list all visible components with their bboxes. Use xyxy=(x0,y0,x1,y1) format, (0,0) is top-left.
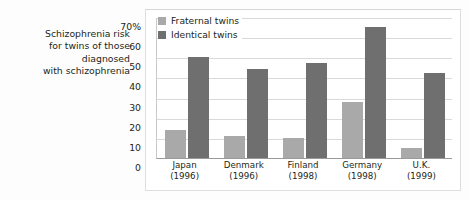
bar-fraternal-twins xyxy=(283,138,304,158)
legend-swatch-icon xyxy=(158,17,166,25)
y-axis-tick-label: 70% xyxy=(107,21,141,32)
figure-container: Schizophrenia risk for twins of those di… xyxy=(0,0,469,200)
x-axis-country: Germany xyxy=(333,160,392,171)
y-axis-tick-label: 0 xyxy=(107,162,141,173)
bar-fraternal-twins xyxy=(165,130,186,158)
y-axis-tick-label: 30 xyxy=(107,101,141,112)
bar-identical-twins xyxy=(365,27,386,158)
x-axis-country: Japan xyxy=(155,160,214,171)
x-axis-tick-label: U.K.(1999) xyxy=(392,160,451,182)
bar-fraternal-twins xyxy=(342,102,363,158)
x-axis-year: (1996) xyxy=(214,171,273,182)
x-axis-country: Denmark xyxy=(214,160,273,171)
x-axis-tick-label: Finland(1998) xyxy=(273,160,332,182)
x-axis: Japan(1996)Denmark(1996)Finland(1998)Ger… xyxy=(155,160,451,194)
x-axis-tick-label: Denmark(1996) xyxy=(214,160,273,182)
legend-swatch-icon xyxy=(158,31,166,39)
x-axis-year: (1998) xyxy=(333,171,392,182)
x-axis-tick-label: Japan(1996) xyxy=(155,160,214,182)
legend-label: Identical twins xyxy=(171,29,238,40)
x-axis-tick-label: Germany(1998) xyxy=(333,160,392,182)
x-axis-country: U.K. xyxy=(392,160,451,171)
y-axis-tick-label: 20 xyxy=(107,121,141,132)
legend-label: Fraternal twins xyxy=(171,15,239,26)
y-axis-tick-label: 60 xyxy=(107,41,141,52)
bar-identical-twins xyxy=(188,57,209,158)
x-axis-year: (1998) xyxy=(273,171,332,182)
y-axis: 70%6050403020100 xyxy=(101,9,141,191)
legend-item-fraternal: Fraternal twins xyxy=(158,15,242,26)
y-axis-tick-label: 50 xyxy=(107,61,141,72)
bar-fraternal-twins xyxy=(401,148,422,158)
chart-legend: Fraternal twins Identical twins xyxy=(158,15,242,43)
bar-identical-twins xyxy=(247,69,268,158)
x-axis-year: (1996) xyxy=(155,171,214,182)
y-axis-tick-label: 40 xyxy=(107,81,141,92)
bar-identical-twins xyxy=(424,73,445,158)
bar-identical-twins xyxy=(306,63,327,158)
x-axis-country: Finland xyxy=(273,160,332,171)
bar-fraternal-twins xyxy=(224,136,245,158)
legend-item-identical: Identical twins xyxy=(158,29,242,40)
x-axis-year: (1999) xyxy=(392,171,451,182)
y-axis-tick-label: 10 xyxy=(107,141,141,152)
